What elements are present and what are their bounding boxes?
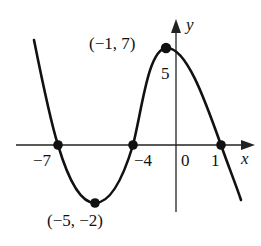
min-point-label: (−5, −2) xyxy=(47,212,103,229)
tick-label-1: 1 xyxy=(211,152,220,169)
tick-label-neg7: −7 xyxy=(33,152,51,169)
point-minimum xyxy=(90,198,100,208)
function-curve xyxy=(34,40,241,203)
point-x-intercept-neg7 xyxy=(53,140,63,150)
y-axis-label: y xyxy=(186,16,194,33)
x-axis-label: x xyxy=(241,150,249,167)
tick-label-0: 0 xyxy=(181,152,190,169)
max-point-label: (−1, 7) xyxy=(89,35,135,52)
tick-label-neg4: −4 xyxy=(134,152,152,169)
point-x-intercept-neg4 xyxy=(128,140,138,150)
y-axis-arrow-icon xyxy=(171,19,181,33)
point-x-intercept-1 xyxy=(216,140,226,150)
tick-label-5: 5 xyxy=(161,65,170,82)
point-maximum xyxy=(161,43,171,53)
